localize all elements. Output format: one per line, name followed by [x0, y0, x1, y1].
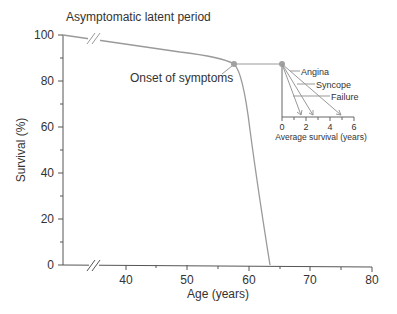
y-axis: 0 20 40 60 80 100 Survival (%)	[14, 28, 63, 272]
onset-marker: Onset of symptoms	[130, 61, 282, 85]
chart-svg: Asymptomatic latent period 0 20 40 60 80…	[0, 0, 397, 314]
onset-label: Onset of symptoms	[130, 71, 233, 85]
y-tick-0: 0	[47, 258, 54, 272]
survival-curve	[63, 33, 270, 265]
inset-tick-2: 2	[303, 122, 308, 132]
x-tick-80: 80	[365, 273, 379, 287]
x-tick-40: 40	[119, 273, 133, 287]
inset-tick-0: 0	[279, 122, 284, 132]
y-tick-40: 40	[41, 166, 55, 180]
y-tick-20: 20	[41, 212, 55, 226]
x-tick-70: 70	[303, 273, 317, 287]
x-tick-60: 60	[242, 273, 256, 287]
angina-label: Angina	[301, 67, 329, 77]
survival-chart: Asymptomatic latent period 0 20 40 60 80…	[0, 0, 397, 314]
y-axis-label: Survival (%)	[14, 118, 28, 183]
inset-x-label: Average survival (years)	[275, 132, 367, 142]
x-axis-label: Age (years)	[187, 287, 249, 301]
x-tick-50: 50	[180, 273, 194, 287]
y-tick-100: 100	[34, 28, 54, 42]
inset-survival: Angina Syncope Failure 0 2 4 6 Average s…	[275, 61, 367, 142]
inset-tick-4: 4	[327, 122, 332, 132]
y-tick-60: 60	[41, 120, 55, 134]
failure-label: Failure	[331, 92, 359, 102]
inset-tick-6: 6	[351, 122, 356, 132]
syncope-label: Syncope	[316, 80, 351, 90]
y-tick-80: 80	[41, 74, 55, 88]
asymptomatic-label: Asymptomatic latent period	[66, 10, 211, 24]
x-axis: 40 50 60 70 80 Age (years)	[63, 259, 379, 301]
